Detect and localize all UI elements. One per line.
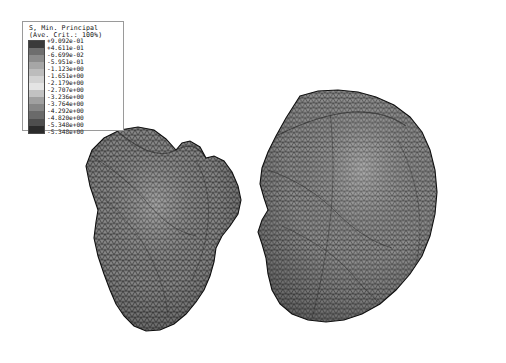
legend-swatch-12 bbox=[29, 126, 44, 133]
right-mesh-shading bbox=[258, 90, 437, 322]
legend-value-1: +4.611e-01 bbox=[47, 44, 84, 51]
legend-swatch-9 bbox=[29, 104, 44, 111]
legend-value-12: -5.348e+00 bbox=[47, 121, 84, 128]
legend-value-3: -5.951e-01 bbox=[47, 58, 84, 65]
legend-value-10: -4.292e+00 bbox=[47, 107, 84, 114]
plot-canvas: S, Min. Principal (Ave. Crit.: 100%) +9.… bbox=[0, 0, 506, 363]
contour-legend: S, Min. Principal (Ave. Crit.: 100%) +9.… bbox=[22, 21, 124, 131]
legend-swatch-6 bbox=[29, 83, 44, 90]
legend-colorbar bbox=[28, 40, 45, 134]
legend-value-list: +9.092e-01+4.611e-01-6.699e-02-5.951e-01… bbox=[47, 40, 84, 135]
legend-value-4: -1.123e+00 bbox=[47, 65, 84, 72]
legend-swatch-2 bbox=[29, 55, 44, 62]
legend-value-6: -2.179e+00 bbox=[47, 79, 84, 86]
legend-swatch-1 bbox=[29, 48, 44, 55]
legend-value-13: -5.348e+00 bbox=[47, 128, 84, 135]
legend-value-11: -4.820e+00 bbox=[47, 114, 84, 121]
legend-swatch-3 bbox=[29, 62, 44, 69]
legend-swatch-8 bbox=[29, 97, 44, 104]
legend-value-0: +9.092e-01 bbox=[47, 37, 84, 44]
left-mesh-body bbox=[86, 127, 241, 331]
legend-swatch-5 bbox=[29, 76, 44, 83]
legend-swatch-4 bbox=[29, 69, 44, 76]
legend-swatch-11 bbox=[29, 119, 44, 126]
legend-value-9: -3.764e+00 bbox=[47, 100, 84, 107]
legend-value-8: -3.236e+00 bbox=[47, 93, 84, 100]
legend-body: +9.092e-01+4.611e-01-6.699e-02-5.951e-01… bbox=[28, 40, 84, 135]
right-mesh-body bbox=[258, 90, 437, 322]
legend-value-7: -2.707e+00 bbox=[47, 86, 84, 93]
legend-value-5: -1.651e+00 bbox=[47, 72, 84, 79]
legend-value-2: -6.699e-02 bbox=[47, 51, 84, 58]
legend-swatch-0 bbox=[29, 41, 44, 48]
legend-swatch-10 bbox=[29, 111, 44, 118]
legend-swatch-7 bbox=[29, 90, 44, 97]
